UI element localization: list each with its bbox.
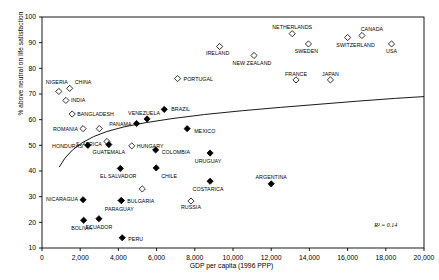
y-tick-label: 80 (28, 65, 36, 72)
data-point-label: ECUADOR (85, 224, 112, 230)
data-point-label: CANADA (361, 26, 384, 32)
data-point-filled[interactable] (207, 150, 213, 156)
data-point-label: COSTARICA (193, 186, 224, 192)
data-point-open[interactable] (63, 97, 69, 103)
data-point-label: PERU (128, 236, 143, 242)
data-point-open[interactable] (359, 32, 365, 38)
data-point-open[interactable] (345, 34, 351, 40)
y-tick-label: 100 (25, 13, 37, 20)
x-axis-label-text: GDP per capita (1996 PPP) (190, 262, 273, 269)
y-axis-label: % above neutral on life satisfaction (17, 0, 24, 154)
y-tick-label: 50 (28, 142, 36, 149)
data-point-label: BRAZIL (171, 106, 190, 112)
data-point-label: BULGARIA (127, 198, 155, 204)
data-point-label: PANAMA (109, 121, 132, 127)
data-point-filled[interactable] (81, 217, 87, 223)
data-point-label: NICARAGUA (46, 196, 78, 202)
x-tick-label: 20,000 (414, 254, 435, 261)
data-point-open[interactable] (388, 41, 394, 47)
x-tick-label: 4,000 (110, 254, 127, 261)
data-point-label: BANGLADESH (77, 111, 114, 117)
data-point-filled[interactable] (119, 235, 125, 241)
plot-frame (42, 17, 424, 248)
data-point-filled[interactable] (133, 120, 139, 126)
data-point-label: USA (386, 48, 397, 54)
data-point-filled[interactable] (268, 181, 274, 187)
data-point-label: MEXICO (194, 128, 215, 134)
y-tick-label: 40 (28, 167, 36, 174)
x-tick-label: 6,000 (148, 254, 165, 261)
data-point-label: CHINA (75, 79, 92, 85)
x-tick-label: 12,000 (261, 254, 282, 261)
data-point-open[interactable] (251, 52, 257, 58)
scatter-plot: 10203040506070809010002,0004,0006,0008,0… (0, 0, 439, 280)
data-point-filled[interactable] (153, 165, 159, 171)
data-point-label: VENEZUELA (128, 110, 160, 116)
data-point-filled[interactable] (161, 106, 167, 112)
data-point-label: HUNGARY (137, 143, 164, 149)
data-point-open[interactable] (305, 41, 311, 47)
data-point-open[interactable] (139, 186, 145, 192)
x-tick-label: 14,000 (299, 254, 320, 261)
data-point-label: SWEDEN (295, 48, 319, 54)
data-point-label: SWITZERLAND (336, 42, 375, 48)
data-point-label: RUSSIA (181, 204, 201, 210)
data-point-filled[interactable] (80, 197, 86, 203)
data-point-open[interactable] (289, 31, 295, 37)
data-point-label: EL SALVADOR (100, 173, 136, 179)
data-point-label: ARGENTINA (256, 174, 288, 180)
data-point-open[interactable] (327, 77, 333, 83)
r-squared: R² = 0.14 (373, 222, 397, 228)
y-tick-label: 60 (28, 116, 36, 123)
data-point-label: ROMANIA (53, 126, 78, 132)
x-tick-label: 0 (40, 254, 44, 261)
x-tick-label: 8,000 (186, 254, 203, 261)
data-point-label: GUATEMALA (92, 149, 125, 155)
data-point-label: PORTUGAL (184, 76, 213, 82)
y-tick-label: 90 (28, 39, 36, 46)
data-point-label: NETHERLANDS (272, 24, 312, 30)
data-point-label: HONDURAS (52, 143, 83, 149)
data-point-filled[interactable] (144, 116, 150, 122)
data-point-open[interactable] (67, 85, 73, 91)
data-point-open[interactable] (175, 76, 181, 82)
x-tick-label: 10,000 (223, 254, 244, 261)
data-point-label: URUGUAY (195, 158, 222, 164)
data-point-open[interactable] (80, 126, 86, 132)
data-point-open[interactable] (69, 111, 75, 117)
data-point-open[interactable] (96, 126, 102, 132)
data-point-filled[interactable] (207, 178, 213, 184)
data-point-label: JAPAN (322, 71, 339, 77)
y-tick-label: 30 (28, 193, 36, 200)
y-tick-label: 20 (28, 219, 36, 226)
x-tick-label: 16,000 (337, 254, 358, 261)
chart-root: 10203040506070809010002,0004,0006,0008,0… (0, 0, 439, 280)
data-point-label: NEW ZEALAND (233, 60, 272, 66)
data-point-label: CHILE (161, 173, 177, 179)
x-tick-label: 2,000 (72, 254, 89, 261)
x-axis-label: GDP per capita (1996 PPP) (0, 262, 439, 269)
data-point-filled[interactable] (96, 216, 102, 222)
y-tick-label: 70 (28, 90, 36, 97)
data-point-filled[interactable] (118, 197, 124, 203)
data-point-label: FRANCE (285, 71, 307, 77)
data-point-label: INDIA (71, 97, 86, 103)
data-point-label: NIGERIA (46, 79, 69, 85)
data-point-label: COLOMBIA (162, 149, 191, 155)
data-point-filled[interactable] (184, 126, 190, 132)
x-tick-label: 18,000 (375, 254, 396, 261)
data-point-filled[interactable] (117, 165, 123, 171)
trend-line (59, 97, 424, 168)
data-point-open[interactable] (129, 143, 135, 149)
data-point-label: PARAGUAY (105, 206, 134, 212)
data-point-open[interactable] (56, 88, 62, 94)
data-point-label: IRELAND (206, 50, 229, 56)
data-point-open[interactable] (293, 77, 299, 83)
y-tick-label: 10 (28, 244, 36, 251)
